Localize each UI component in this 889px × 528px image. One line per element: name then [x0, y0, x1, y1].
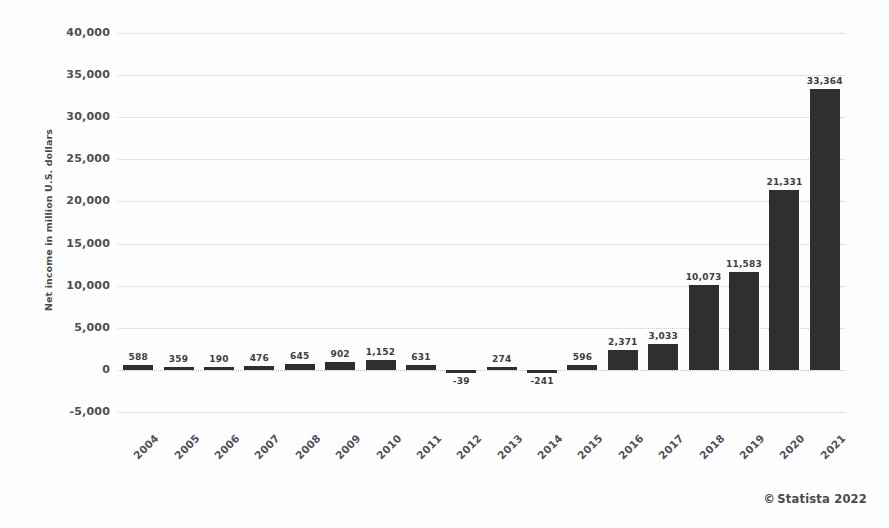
bar[interactable]	[527, 370, 557, 373]
bar[interactable]	[164, 367, 194, 370]
bar-value-label: 476	[250, 353, 269, 363]
y-axis-tick-label: 15,000	[18, 237, 110, 250]
x-axis-tick-label: 2020	[777, 432, 807, 462]
copyright-icon: ©	[764, 492, 776, 506]
bar-group: 645	[280, 33, 320, 412]
x-axis-tick-label: 2011	[414, 432, 444, 462]
bar-value-label: 1,152	[366, 347, 395, 357]
bar-value-label: 3,033	[649, 331, 678, 341]
x-axis-tick-label: 2018	[697, 432, 727, 462]
x-axis-tick-label: 2012	[454, 432, 484, 462]
bar[interactable]	[608, 350, 638, 370]
bar-value-label: 21,331	[766, 177, 802, 187]
bar-value-label: 645	[290, 351, 309, 361]
footer-credit: ©Statista 2022	[764, 492, 867, 506]
x-axis-tick-label: 2008	[293, 432, 323, 462]
footer-credit-text: Statista 2022	[777, 492, 867, 506]
y-axis-tick-label: 5,000	[18, 321, 110, 334]
bar-group: 3,033	[643, 33, 683, 412]
y-axis-tick-label: 20,000	[18, 194, 110, 207]
bar-group: 190	[199, 33, 239, 412]
x-axis-tick-label: 2006	[212, 432, 242, 462]
bar-group: 476	[239, 33, 279, 412]
x-axis-tick-label: 2010	[374, 432, 404, 462]
x-axis-tick-label: 2005	[172, 432, 202, 462]
bar-value-label: 359	[169, 354, 188, 364]
bar[interactable]	[325, 362, 355, 370]
bar-group: 2,371	[603, 33, 643, 412]
bar-group: 631	[401, 33, 441, 412]
bar-group: 274	[482, 33, 522, 412]
x-axis-tick-label: 2004	[131, 432, 161, 462]
y-axis-tick-label: 35,000	[18, 68, 110, 81]
bar[interactable]	[366, 360, 396, 370]
bar-group: 10,073	[683, 33, 723, 412]
bar-group: 21,331	[764, 33, 804, 412]
plot-area: 5883591904766459021,152631-39274-2415962…	[118, 33, 845, 412]
bar[interactable]	[446, 370, 476, 373]
bar[interactable]	[810, 89, 840, 370]
bar[interactable]	[689, 285, 719, 370]
bar-value-label: 11,583	[726, 259, 762, 269]
bar-group: -39	[441, 33, 481, 412]
x-axis-tick-label: 2019	[737, 432, 767, 462]
bar-group: 596	[562, 33, 602, 412]
bar-group: 33,364	[805, 33, 845, 412]
bar[interactable]	[123, 365, 153, 370]
bar-value-label: -39	[453, 376, 470, 386]
bar[interactable]	[285, 364, 315, 369]
x-axis-tick-label: 2016	[616, 432, 646, 462]
bar-value-label: -241	[530, 376, 553, 386]
bar-group: 359	[158, 33, 198, 412]
bar-group: 902	[320, 33, 360, 412]
bar[interactable]	[406, 365, 436, 370]
bar[interactable]	[487, 367, 517, 370]
bar-group: 11,583	[724, 33, 764, 412]
x-axis-tick-label: 2014	[535, 432, 565, 462]
x-axis-tick-label: 2017	[656, 432, 686, 462]
bar-value-label: 596	[573, 352, 592, 362]
y-axis-tick-label: 0	[18, 363, 110, 376]
bar-group: -241	[522, 33, 562, 412]
bar-value-label: 190	[209, 354, 228, 364]
gridline	[118, 412, 845, 413]
bar-value-label: 10,073	[686, 272, 722, 282]
bar-value-label: 2,371	[608, 337, 637, 347]
y-axis-tick-label: -5,000	[18, 405, 110, 418]
y-axis-tick-label: 30,000	[18, 110, 110, 123]
y-axis-tick-label: 40,000	[18, 26, 110, 39]
bar[interactable]	[769, 190, 799, 370]
bar[interactable]	[244, 366, 274, 370]
bar-value-label: 588	[128, 352, 147, 362]
x-axis-tick-label: 2007	[252, 432, 282, 462]
bar[interactable]	[567, 365, 597, 370]
bar[interactable]	[648, 344, 678, 370]
bar-chart: Net income in million U.S. dollars 40,00…	[0, 0, 889, 528]
x-axis-tick-label: 2009	[333, 432, 363, 462]
bar-value-label: 33,364	[807, 76, 843, 86]
y-axis-tick-label: 10,000	[18, 279, 110, 292]
bar-value-label: 631	[411, 352, 430, 362]
bar-value-label: 274	[492, 354, 511, 364]
bar[interactable]	[204, 367, 234, 370]
x-axis-tick-label: 2021	[818, 432, 848, 462]
bar-value-label: 902	[330, 349, 349, 359]
y-axis-tick-label: 25,000	[18, 152, 110, 165]
x-axis-tick-label: 2015	[575, 432, 605, 462]
bar[interactable]	[729, 272, 759, 370]
bar-group: 1,152	[360, 33, 400, 412]
x-axis-tick-label: 2013	[495, 432, 525, 462]
bar-group: 588	[118, 33, 158, 412]
